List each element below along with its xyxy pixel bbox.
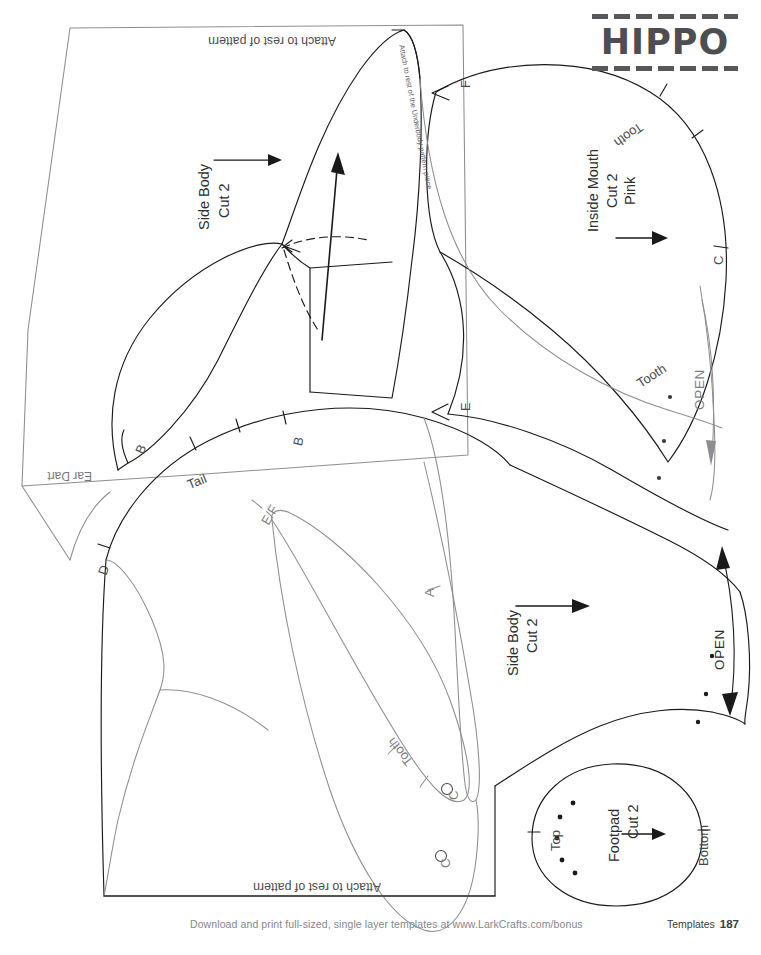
piece-label-side-body-bottom-cut: Cut 2	[524, 618, 542, 653]
lower-body-gray-inner-left	[104, 560, 164, 896]
grainline-arrow-1	[322, 158, 338, 340]
open-label-mouth: OPEN	[692, 369, 708, 410]
notch-label-f-top: F	[458, 80, 474, 88]
sheet-lower-tail	[22, 486, 70, 560]
notch-tick-tail-b	[236, 419, 240, 432]
open-arrow-black-head-bottom	[722, 692, 738, 716]
inner-body-gray-right	[424, 418, 476, 802]
piece-label-side-body-top-cut: Cut 2	[216, 183, 234, 218]
piece-label-footpad-cut: Cut 2	[625, 804, 643, 839]
inside-mouth-bottom-curve	[448, 414, 728, 530]
e-arrowhead	[432, 404, 449, 420]
notch-label-c-bottom: C	[438, 859, 454, 868]
piece-label-inside-mouth-fabric: Pink	[622, 177, 640, 205]
pattern-artwork	[0, 0, 761, 955]
inner-body-gray-right-back	[424, 462, 479, 800]
side-body-sheet-outline	[22, 25, 468, 486]
footpad-bottom-label: Bottom	[696, 825, 712, 866]
page-title: HIPPO	[591, 24, 739, 61]
footer-page-number: 187	[720, 918, 739, 930]
notch-label-a-body: A	[422, 588, 438, 597]
lower-side-body-right-top	[510, 465, 740, 592]
notch-label-c-mouth: C	[711, 256, 727, 265]
piece-label-side-body-bottom-name: Side Body	[505, 610, 523, 676]
footer-note: Download and print full-sized, single la…	[190, 918, 583, 930]
lower-body-gray-leg-seam	[160, 690, 268, 730]
grainline-arrowhead-1	[331, 152, 345, 175]
pattern-page: HIPPO Attach to rest of pattern Side Bod…	[0, 0, 761, 955]
piece-label-footpad-name: Footpad	[606, 809, 624, 862]
side-body-top-outline-lower	[118, 244, 282, 470]
attach-note-top: Attach to rest of pattern	[208, 33, 336, 48]
inside-mouth-left-curve	[440, 252, 464, 414]
notch-tick-d	[98, 544, 110, 548]
title-block: HIPPO	[591, 14, 739, 71]
gray-corner-curve	[70, 492, 110, 560]
lower-side-body-foot-curve	[495, 709, 712, 786]
lower-side-body-foot-right	[712, 712, 745, 724]
piece-label-side-body-top-name: Side Body	[196, 164, 214, 230]
grainline-arrowhead-2	[572, 599, 590, 613]
footpad-top-label: Top	[548, 830, 564, 851]
notch-label-e-mouth: E	[458, 402, 474, 411]
lower-side-body-left-bottom	[101, 560, 495, 896]
ear-dart-label: Ear Dart	[47, 468, 92, 483]
open-label-side-body: OPEN	[712, 629, 728, 670]
underbody-strip-notch	[282, 244, 392, 268]
notch-tick-tail-a	[190, 437, 196, 450]
piece-label-inside-mouth-name: Inside Mouth	[585, 149, 603, 232]
footer-page: Templates187	[667, 918, 739, 930]
notch-tick-c-inner	[420, 776, 428, 787]
ear-dart-dash-upper	[282, 237, 368, 248]
attach-note-bottom: Attach to rest of pattern	[253, 879, 381, 894]
open-arrow-black-head-top	[716, 546, 730, 570]
label-arrowhead-1	[268, 154, 282, 166]
footer-section-label: Templates	[667, 918, 715, 930]
notch-label-c-inner: C	[446, 791, 462, 800]
piece-label-inside-mouth-cut: Cut 2	[604, 173, 622, 208]
label-arrowhead-mouth	[652, 231, 668, 245]
title-rule-top	[592, 14, 738, 19]
ear-tip-b	[122, 430, 128, 463]
lower-side-body-right-edge	[740, 592, 750, 724]
inner-ear-leaf-left	[272, 510, 470, 801]
notch-tick-b-body	[283, 411, 286, 424]
footpad-grainline-arrowhead	[652, 828, 666, 840]
title-rule-bottom	[592, 66, 738, 71]
notch-tick-tooth-a	[660, 84, 667, 96]
notch-tick-ef	[252, 500, 262, 508]
side-body-top-outline-left	[112, 30, 404, 470]
lower-side-body-top-arc	[106, 408, 510, 560]
